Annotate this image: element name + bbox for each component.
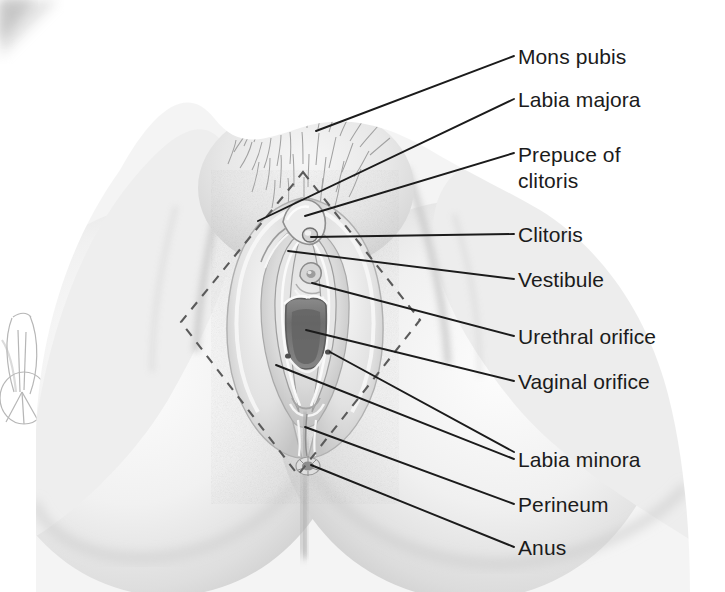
anatomy-figure: Mons pubisLabia majoraPrepuce ofclitoris… (0, 0, 725, 592)
label-text: Vestibule (518, 268, 604, 291)
label-urethral-orifice: Urethral orifice (518, 324, 656, 350)
label-text: Urethral orifice (518, 325, 656, 348)
label-labia-minora: Labia minora (518, 447, 641, 473)
label-prepuce-of-clitoris: Prepuce ofclitoris (518, 142, 621, 194)
label-mons-pubis: Mons pubis (518, 44, 626, 70)
label-text: Labia majora (518, 88, 641, 111)
label-labia-majora: Labia majora (518, 87, 641, 113)
label-vaginal-orifice: Vaginal orifice (518, 369, 650, 395)
label-text: Mons pubis (518, 45, 626, 68)
label-text: Clitoris (518, 223, 583, 246)
label-clitoris: Clitoris (518, 222, 583, 248)
label-vestibule: Vestibule (518, 267, 604, 293)
label-perineum: Perineum (518, 492, 609, 518)
label-text: Vaginal orifice (518, 370, 650, 393)
label-text-line2: clitoris (518, 168, 621, 194)
label-layer: Mons pubisLabia majoraPrepuce ofclitoris… (0, 0, 725, 592)
label-text: Labia minora (518, 448, 641, 471)
label-text: Prepuce of (518, 143, 621, 166)
label-anus: Anus (518, 535, 566, 561)
label-text: Perineum (518, 493, 609, 516)
label-text: Anus (518, 536, 566, 559)
